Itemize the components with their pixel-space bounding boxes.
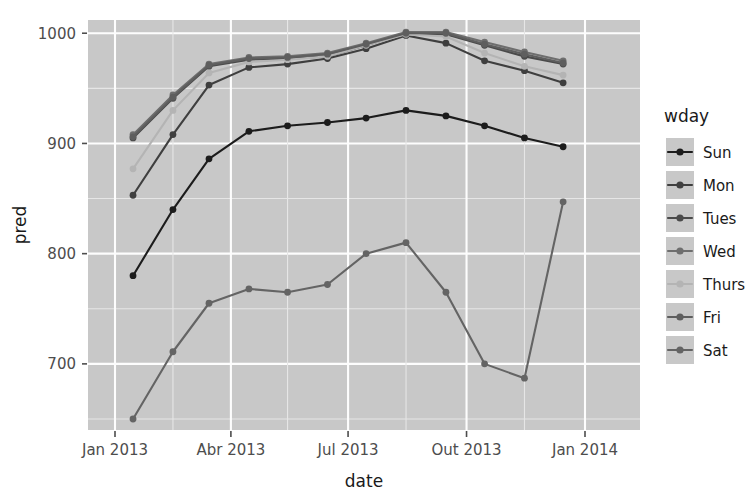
legend-item-fri[interactable]: Fri [666,303,721,331]
legend-item-wed[interactable]: Wed [666,237,736,265]
x-axis-tick-label: Jan 2014 [551,441,618,459]
legend[interactable]: SunMonTuesWedThursFriSat [666,138,745,364]
data-point [206,62,213,69]
legend-key-point [676,280,683,287]
legend-item-label: Sat [703,342,728,360]
data-point [521,135,528,142]
data-point [560,79,567,86]
legend-key-point [676,214,683,221]
y-axis-tick-label: 800 [47,245,76,263]
data-point [246,128,253,135]
data-point [206,70,213,77]
legend-key-point [676,247,683,254]
data-point [130,133,137,140]
y-axis-tick-label: 900 [47,135,76,153]
data-point [130,416,137,423]
x-axis-tick-label: Abr 2013 [196,441,265,459]
legend-key-point [676,346,683,353]
data-point [130,192,137,199]
legend-item-label: Fri [703,309,721,327]
data-point [481,360,488,367]
data-point [363,250,370,257]
legend-key-point [676,313,683,320]
legend-item-tues[interactable]: Tues [666,204,737,232]
data-point [481,41,488,48]
data-point [130,165,137,172]
data-point [560,198,567,205]
data-point [170,131,177,138]
data-point [403,107,410,114]
data-point [324,281,331,288]
data-point [443,289,450,296]
legend-item-label: Wed [703,243,736,261]
legend-title: wday [664,106,709,126]
data-point [324,51,331,58]
legend-item-label: Sun [703,144,732,162]
x-axis-title: date [345,471,383,491]
x-axis: Jan 2013Abr 2013Jul 2013Out 2013Jan 2014 [81,431,618,459]
data-point [403,30,410,37]
data-point [284,54,291,61]
data-point [443,30,450,37]
data-point [170,94,177,101]
legend-key-point [676,181,683,188]
y-axis-tick-label: 1000 [38,25,76,43]
data-point [206,300,213,307]
data-point [130,272,137,279]
data-point [443,112,450,119]
data-point [170,206,177,213]
legend-item-thurs[interactable]: Thurs [666,270,745,298]
legend-item-sun[interactable]: Sun [666,138,732,166]
legend-item-label: Tues [702,210,737,228]
x-axis-tick-label: Out 2013 [431,441,501,459]
data-point [443,40,450,47]
y-axis-tick-label: 700 [47,355,76,373]
data-point [206,155,213,162]
x-axis-tick-label: Jan 2013 [81,441,148,459]
data-point [521,51,528,58]
data-point [521,375,528,382]
data-point [284,122,291,129]
legend-item-label: Mon [703,177,735,195]
data-point [246,55,253,62]
data-point [481,57,488,64]
y-axis-title: pred [10,206,30,245]
data-point [403,239,410,246]
legend-item-sat[interactable]: Sat [666,336,728,364]
data-point [521,63,528,70]
y-axis: 7008009001000 [38,25,87,374]
data-point [481,122,488,129]
legend-key-point [676,148,683,155]
legend-item-mon[interactable]: Mon [666,171,735,199]
data-point [560,60,567,67]
data-point [481,50,488,57]
chart-container: 7008009001000 Jan 2013Abr 2013Jul 2013Ou… [0,0,754,495]
data-point [246,286,253,293]
data-point [363,41,370,48]
data-point [284,289,291,296]
legend-item-label: Thurs [702,276,745,294]
data-point [206,82,213,89]
data-point [324,119,331,126]
x-axis-tick-label: Jul 2013 [317,441,379,459]
data-point [170,348,177,355]
data-point [560,143,567,150]
data-point [363,115,370,122]
data-point [170,107,177,114]
line-chart: 7008009001000 Jan 2013Abr 2013Jul 2013Ou… [0,0,754,495]
data-point [560,72,567,79]
